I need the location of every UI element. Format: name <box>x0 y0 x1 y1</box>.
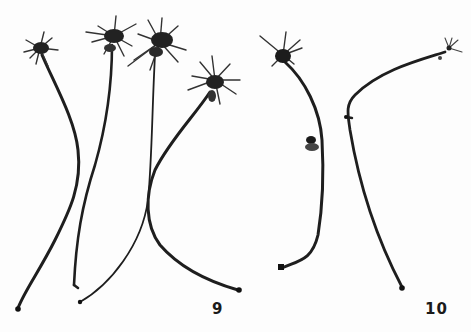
specimen-9a <box>15 32 79 312</box>
specimen-illustration <box>0 0 471 332</box>
specimen-9b <box>74 16 136 288</box>
specimen-9d <box>148 56 242 293</box>
specimen-10b <box>344 38 462 291</box>
figure-label-9: 9 <box>212 300 223 318</box>
specimen-plate: 9 10 <box>0 0 471 332</box>
specimen-9c <box>78 18 186 304</box>
figure-label-10: 10 <box>425 300 448 318</box>
specimen-10a <box>260 32 323 270</box>
